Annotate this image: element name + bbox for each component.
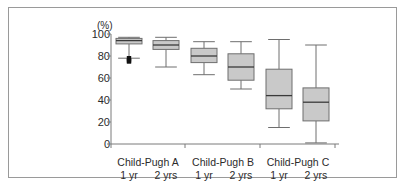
box-plot-5 [266, 40, 292, 128]
sub-label-b-2yrs: 2 yrs [225, 169, 257, 181]
group-label-child-pugh-c: Child-Pugh C [264, 156, 332, 168]
sub-label-c-1yr: 1 yr [264, 169, 294, 181]
boxplot-chart: (%) 100 80 60 40 20 0 Child-Pugh A Child… [9, 8, 398, 179]
boxplot-svg [9, 8, 398, 179]
sub-label-b-1yr: 1 yr [189, 169, 219, 181]
box-rect [266, 69, 292, 109]
box-plot-6 [303, 45, 329, 143]
box-plot-3 [191, 42, 217, 75]
outlier-marker [127, 59, 131, 63]
figure-frame: (%) 100 80 60 40 20 0 Child-Pugh A Child… [8, 7, 397, 178]
box-plot-2 [153, 37, 179, 67]
group-label-child-pugh-a: Child-Pugh A [114, 156, 182, 168]
box-plot-1 [116, 37, 142, 63]
group-label-child-pugh-b: Child-Pugh B [189, 156, 257, 168]
sub-label-a-2yrs: 2 yrs [150, 169, 182, 181]
box-plot-4 [228, 42, 254, 89]
box-rect [303, 88, 329, 121]
sub-label-a-1yr: 1 yr [114, 169, 144, 181]
sub-label-c-2yrs: 2 yrs [300, 169, 332, 181]
